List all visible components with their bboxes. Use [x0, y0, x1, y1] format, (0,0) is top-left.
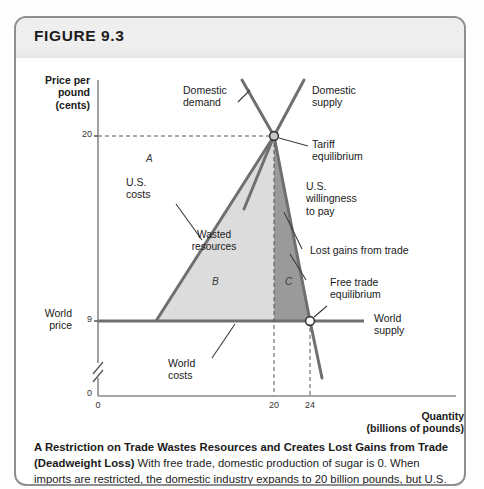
x-origin-label: 0 [90, 400, 106, 411]
domestic-supply-label: Domestic supply [312, 84, 376, 109]
us-willingness-label: U.S. willingness to pay [306, 180, 380, 217]
leader-line-free-trade-equilibrium [314, 306, 327, 317]
y-tick-label-20: 20 [74, 129, 92, 140]
lost-gains-label: Lost gains from trade [310, 244, 440, 256]
x-axis-title: Quantity (billions of pounds) [334, 410, 464, 435]
leader-line-world-costs [212, 324, 235, 358]
world-costs-label: World costs [168, 357, 224, 382]
region-a-label: A [146, 153, 160, 165]
region-c-label: C [285, 276, 299, 288]
region-b-label: B [212, 276, 226, 288]
tariff-equilibrium-point [270, 132, 279, 141]
leader-line-tariff-equilibrium [279, 138, 308, 146]
figure-caption: A Restriction on Trade Wastes Resources … [34, 439, 449, 486]
free-trade-equilibrium-label: Free trade equilibrium [330, 276, 406, 301]
wasted-resources-label: Wasted resources [174, 229, 254, 253]
free-trade-equilibrium-point [306, 317, 315, 326]
y-axis-title: Price per pound (cents) [24, 74, 90, 111]
x-tick-label-24: 24 [300, 400, 320, 411]
us-costs-label: U.S. costs [126, 176, 176, 201]
world-supply-label: World supply [374, 312, 434, 337]
domestic-demand-label: Domestic demand [183, 84, 247, 109]
figure-box: FIGURE 9.3 [14, 16, 466, 486]
world-price-label: World price [18, 307, 72, 332]
y-origin-label: 0 [76, 388, 92, 399]
x-tick-label-20: 20 [264, 400, 284, 411]
figure-page: FIGURE 9.3 [0, 0, 484, 489]
tariff-equilibrium-label: Tariff equilibrium [312, 138, 382, 163]
chart-area: Price per pound (cents) 20 9 0 0 20 24 Q… [16, 58, 464, 433]
y-tick-label-9: 9 [76, 314, 92, 325]
figure-title: FIGURE 9.3 [34, 27, 124, 45]
